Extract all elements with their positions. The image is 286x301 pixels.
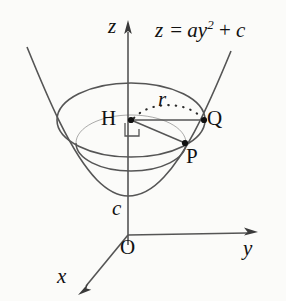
vertex-height-label: c (112, 198, 121, 219)
point-p-label: P (186, 146, 198, 167)
equation-variable: y (198, 18, 207, 42)
equation-lhs: z (155, 18, 163, 42)
equation-coefficient: a (187, 18, 198, 42)
axis-group (78, 20, 258, 295)
point-h-label: H (101, 108, 116, 129)
right-angle-marker (125, 123, 139, 136)
equation-constant: c (236, 18, 245, 42)
equation-plus: + (219, 18, 231, 42)
point-h-dot (128, 117, 134, 123)
y-axis-line (128, 233, 247, 235)
paraboloid-figure: z y x O c H Q P r z = ay2 + c (0, 0, 286, 301)
origin-label: O (120, 237, 135, 258)
surface-equation: z = ay2 + c (155, 18, 245, 41)
z-axis-label: z (108, 16, 116, 37)
y-axis-label: y (243, 238, 252, 259)
y-axis-arrowhead (244, 228, 258, 236)
equation-equals: = (170, 18, 182, 42)
equation-exponent: 2 (207, 17, 214, 32)
x-axis-label: x (57, 266, 66, 287)
radius-label: r (158, 89, 166, 110)
x-axis-arrowhead (78, 284, 91, 296)
point-q-label: Q (207, 108, 222, 129)
z-axis-arrowhead (124, 20, 132, 34)
